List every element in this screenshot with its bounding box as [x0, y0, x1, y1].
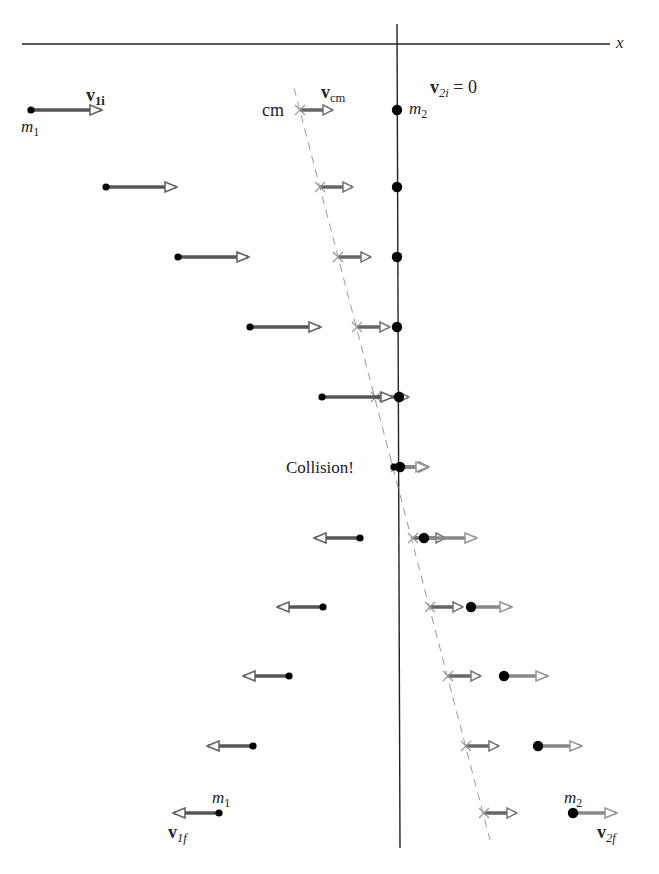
- m1-dot: [356, 534, 363, 541]
- m2-dot: [392, 322, 402, 332]
- v1f-base: v: [168, 822, 177, 842]
- m1-bottom-label: m1: [212, 789, 230, 810]
- m1-dot: [246, 323, 253, 330]
- m2-dot: [533, 741, 543, 751]
- x-axis-label: x: [616, 34, 624, 51]
- collision-label: Collision!: [286, 459, 354, 476]
- m2-dot: [419, 533, 429, 543]
- v1f-label: v1f: [168, 823, 187, 845]
- m1-top-base: m: [21, 117, 33, 136]
- m2-top-label: m2: [409, 100, 427, 121]
- m2-dot: [466, 602, 476, 612]
- m1-bottom-base: m: [212, 788, 224, 807]
- m2-top-sub: 2: [421, 107, 427, 121]
- time-axis-line: [397, 24, 400, 848]
- m2-bottom-label: m2: [564, 789, 582, 810]
- v2f-sub: 2f: [606, 831, 616, 845]
- v1i-label: v1i: [86, 86, 105, 108]
- cm-label: cm: [262, 101, 284, 119]
- m1-dot: [27, 106, 34, 113]
- v1i-base: v: [86, 85, 95, 105]
- v1f-sub: 1f: [177, 831, 187, 845]
- vcm-sub: cm: [330, 91, 345, 105]
- m2-top-base: m: [409, 99, 421, 118]
- m2-dot: [394, 392, 404, 402]
- v1i-sub: 1i: [95, 94, 105, 108]
- v2i-sub: 2i: [439, 86, 449, 100]
- m1-dot: [318, 393, 325, 400]
- m1-dot: [249, 742, 256, 749]
- v2i-label: v2i = 0: [430, 78, 477, 100]
- m1-dot: [102, 183, 109, 190]
- m2-bottom-sub: 2: [576, 796, 582, 810]
- vcm-label: vcm: [321, 83, 345, 105]
- m1-bottom-sub: 1: [224, 796, 230, 810]
- m1-top-sub: 1: [33, 125, 39, 139]
- v2f-base: v: [597, 822, 606, 842]
- m1-dot: [319, 603, 326, 610]
- m1-dot: [285, 672, 292, 679]
- collision-diagram: x v1i m1 vcm cm v2i = 0 m2 Collision! m1…: [0, 0, 659, 874]
- m1-dot: [174, 253, 181, 260]
- m2-dot: [392, 182, 402, 192]
- m2-dot: [392, 105, 402, 115]
- diagram-canvas: [0, 0, 659, 874]
- m2-dot: [499, 671, 509, 681]
- v2f-label: v2f: [597, 823, 616, 845]
- m2-dot: [395, 462, 405, 472]
- v2i-suffix: = 0: [449, 77, 477, 97]
- vcm-base: v: [321, 82, 330, 102]
- m2-dot: [392, 252, 402, 262]
- m1-top-label: m1: [21, 118, 39, 139]
- m2-bottom-base: m: [564, 788, 576, 807]
- v2i-base: v: [430, 77, 439, 97]
- m1-dot: [215, 809, 222, 816]
